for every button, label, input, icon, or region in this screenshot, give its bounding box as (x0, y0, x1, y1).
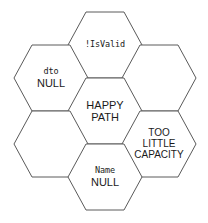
hexagon-diagram: !IsValiddtoNULLHAPPYPATHTOOLITTLECAPACIT… (0, 0, 208, 223)
hexagon-canvas (0, 0, 208, 223)
